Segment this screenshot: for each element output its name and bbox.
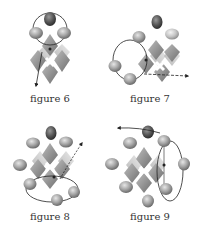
figure-caption: figure 6 <box>0 93 100 104</box>
figure-7-diagram <box>100 0 200 100</box>
center-dot <box>49 48 52 51</box>
figure-caption: figure 8 <box>0 211 100 222</box>
figure-6-diagram <box>0 0 100 100</box>
atom <box>133 31 146 43</box>
atom <box>119 181 133 193</box>
atom <box>142 195 154 208</box>
center-dot <box>53 176 56 179</box>
figure-8-diagram <box>0 121 100 221</box>
figure-9-panel: figure 9 <box>100 121 200 242</box>
figure-8-panel: figure 8 <box>0 121 100 242</box>
atom-dark <box>46 126 57 140</box>
atom <box>57 27 71 39</box>
atom <box>26 138 40 149</box>
figure-9-diagram <box>100 121 200 221</box>
atom <box>105 158 119 170</box>
atom <box>160 183 173 195</box>
figure-6-panel: figure 6 <box>0 0 100 121</box>
atom-dark <box>44 12 56 26</box>
atom <box>178 158 190 171</box>
figure-caption: figure 9 <box>100 211 200 222</box>
octahedron <box>136 173 152 193</box>
atom <box>24 178 37 190</box>
atom <box>59 137 73 148</box>
atom <box>165 29 179 40</box>
atom <box>13 159 27 171</box>
octahedra-cluster <box>30 34 70 84</box>
atom <box>29 27 43 39</box>
atom-dark <box>142 126 154 139</box>
atom <box>158 135 171 147</box>
atom-dark <box>152 15 163 29</box>
atom <box>124 73 137 85</box>
figure-caption: figure 7 <box>100 93 200 104</box>
atom <box>123 137 137 149</box>
atom <box>51 194 63 206</box>
octahedron <box>42 62 58 84</box>
center-dot <box>163 164 166 167</box>
center-dot <box>145 59 148 62</box>
octahedron <box>164 44 180 62</box>
atom <box>68 186 80 198</box>
atom <box>109 60 122 72</box>
figure-7-panel: figure 7 <box>100 0 200 121</box>
octahedron <box>42 169 58 189</box>
